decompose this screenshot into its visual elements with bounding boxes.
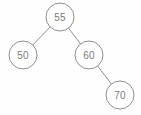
edge-55-to-50 bbox=[33, 27, 50, 45]
node-60[interactable]: 60 bbox=[75, 41, 103, 69]
node-70[interactable]: 70 bbox=[106, 81, 134, 109]
edge-60-to-70 bbox=[98, 66, 112, 84]
node-label-50: 50 bbox=[17, 50, 29, 61]
node-55[interactable]: 55 bbox=[46, 3, 74, 31]
binary-tree-diagram: 55 50 60 70 bbox=[0, 0, 141, 115]
node-50[interactable]: 50 bbox=[9, 41, 37, 69]
node-label-55: 55 bbox=[54, 12, 66, 23]
node-label-60: 60 bbox=[83, 50, 95, 61]
edge-55-to-60 bbox=[68, 28, 80, 44]
node-label-70: 70 bbox=[114, 90, 126, 101]
tree-canvas: 55 50 60 70 bbox=[0, 0, 141, 115]
